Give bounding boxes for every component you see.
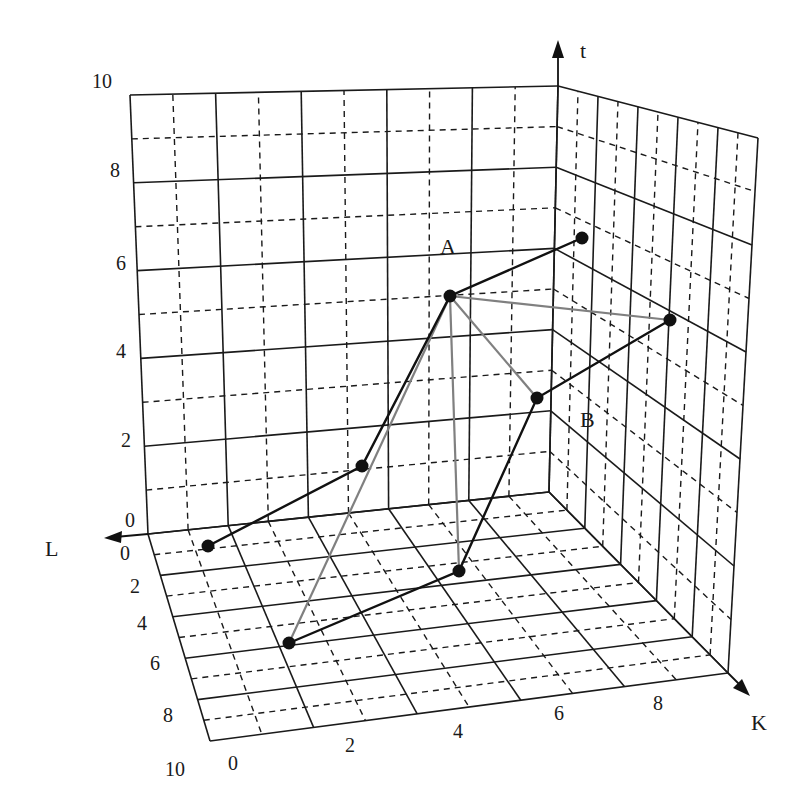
gray-rays	[289, 296, 670, 643]
l-axis-label: L	[45, 536, 58, 561]
t-axis-ticks: 10 8 6 4 2 0	[92, 70, 135, 531]
point-floor-mid	[453, 565, 466, 578]
point-a	[444, 290, 457, 303]
k-tick-2: 2	[345, 734, 355, 756]
point-b	[531, 392, 544, 405]
point-right	[664, 314, 677, 327]
t-axis-arrow-icon	[552, 40, 564, 58]
t-tick-0: 0	[125, 509, 135, 531]
point-mid-left	[356, 460, 369, 473]
t-axis: t	[552, 38, 586, 86]
floor-grid	[148, 492, 728, 741]
k-axis: K	[728, 673, 767, 735]
l-tick-2: 2	[130, 575, 140, 597]
l-tick-8: 8	[163, 704, 173, 726]
t-axis-label: t	[580, 38, 586, 63]
k-tick-4: 4	[453, 720, 463, 742]
back-wall-grid	[130, 86, 558, 534]
label-b: B	[580, 407, 595, 432]
l-tick-10: 10	[165, 758, 185, 780]
t-tick-6: 6	[116, 252, 126, 274]
t-tick-8: 8	[110, 159, 120, 181]
diagram-canvas: t L K 10 8 6 4 2 0 0 2 4 6 8 10 0 2 4 6 …	[0, 0, 802, 809]
l-tick-0: 0	[120, 542, 130, 564]
k-axis-label: K	[751, 710, 767, 735]
t-tick-2: 2	[121, 429, 131, 451]
point-floor-front	[283, 637, 296, 650]
k-tick-0: 0	[228, 752, 238, 774]
right-wall-grid	[549, 86, 758, 673]
k-axis-ticks: 0 2 4 6 8	[228, 692, 663, 774]
l-axis-ticks: 0 2 4 6 8 10	[120, 542, 185, 780]
label-a: A	[440, 234, 456, 259]
l-tick-4: 4	[137, 612, 147, 634]
k-tick-8: 8	[653, 692, 663, 714]
three-d-grid-figure: t L K 10 8 6 4 2 0 0 2 4 6 8 10 0 2 4 6 …	[0, 0, 802, 809]
point-floor-left	[202, 540, 215, 553]
l-axis: L	[45, 531, 148, 561]
l-tick-6: 6	[150, 652, 160, 674]
point-top-right	[576, 232, 589, 245]
t-tick-10: 10	[92, 70, 112, 92]
k-tick-6: 6	[554, 702, 564, 724]
t-tick-4: 4	[116, 340, 126, 362]
